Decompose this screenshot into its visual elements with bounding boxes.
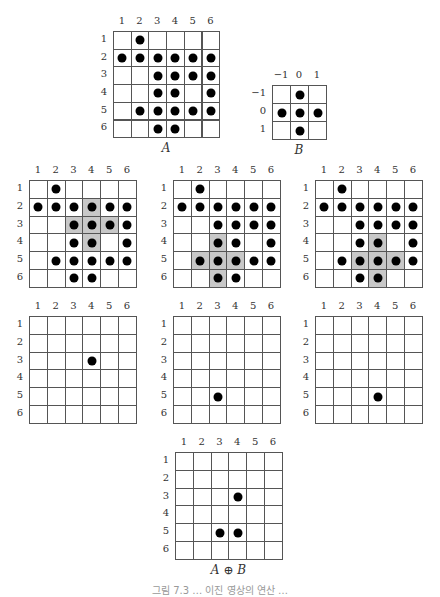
pixel-dot-icon [123,238,132,247]
shaded-cell [100,216,119,235]
grid-cell [272,85,291,104]
grid-cell [29,334,48,353]
grid-cell [244,180,263,199]
pixel-dot-icon [409,238,418,247]
pixel-dot-icon [373,238,382,247]
grid-cell [315,405,334,424]
pixel-dot-icon [189,107,198,116]
row-label: 2 [291,336,309,347]
grid-cell [175,505,194,524]
grid-cell [272,121,291,140]
column-label: 2 [191,300,209,311]
grid-cell [47,251,66,270]
grid-cell [368,180,387,199]
grid-cell [118,216,137,235]
grid-cell [244,269,263,288]
grid-cell [315,180,334,199]
pixel-dot-icon [373,256,382,265]
row-label: 3 [291,354,309,365]
pixel-dot-icon [409,220,418,229]
grid-cell [173,352,192,371]
pixel-dot-icon [267,220,276,229]
grid-cell [333,233,352,252]
grid-cell [29,405,48,424]
grid-cell [209,216,228,235]
pixel-dot-icon [213,274,222,283]
row-label: 3 [291,218,309,229]
pixel-dot-icon [206,107,215,116]
row-label: 6 [291,271,309,282]
pixel-dot-icon [105,256,114,265]
grid-cell [118,316,137,335]
row-label: 4 [149,235,167,246]
grid-cell [333,216,352,235]
column-label: 1 [173,300,191,311]
pixel-dot-icon [213,220,222,229]
grid-cell [173,269,192,288]
row-label: 4 [89,86,107,97]
column-label: 2 [131,15,149,26]
grid-cell [404,369,423,388]
grid-cell [351,316,370,335]
pixel-dot-icon [338,185,347,194]
grid-cell [131,31,150,50]
grid-cell [202,102,221,121]
grid-cell [315,216,334,235]
row-label: 4 [291,235,309,246]
grid-cell [175,523,194,542]
grid-cell [82,180,101,199]
grid-cell [404,233,423,252]
grid-cell [211,541,230,560]
pixel-dot-icon [52,185,61,194]
grid-cell [173,198,192,217]
grid-cell [191,216,210,235]
grid-cell [191,269,210,288]
pixel-dot-icon [231,220,240,229]
grid-cell [209,369,228,388]
row-label: 2 [151,472,169,483]
pixel-dot-icon [153,107,162,116]
grid-cell [368,316,387,335]
row-label: 6 [291,407,309,418]
pixel-dot-icon [249,203,258,212]
pixel-dot-icon [409,256,418,265]
row-label: 2 [89,51,107,62]
row-label: 4 [291,371,309,382]
pixel-dot-icon [123,220,132,229]
row-label: 4 [5,371,23,382]
grid-cell [333,352,352,371]
grid-cell [386,233,405,252]
column-label: 1 [173,164,191,175]
grid-cell [193,470,212,489]
grid-cell [244,198,263,217]
grid-cell [351,198,370,217]
grid-cell [175,452,194,471]
grid-cell [148,120,167,139]
grid-cell [100,269,119,288]
grid-cell [386,334,405,353]
pixel-dot-icon [249,220,258,229]
column-label: 5 [244,300,262,311]
grid-cell [404,198,423,217]
shaded-cell [65,216,84,235]
pixel-dot-icon [171,89,180,98]
grid-cell [315,316,334,335]
grid-cell [173,233,192,252]
row-label: 1 [149,182,167,193]
grid-cell [100,180,119,199]
grid-cell [82,352,101,371]
grid-cell [368,369,387,388]
shaded-cell [209,269,228,288]
grid-cell [404,352,423,371]
grid-cell [333,180,352,199]
column-label: 2 [333,300,351,311]
pixel-dot-icon [52,203,61,212]
grid-cell [386,198,405,217]
column-label: 5 [386,300,404,311]
shaded-cell [82,216,101,235]
grid-cell [47,387,66,406]
grid-cell [166,84,185,103]
grid-cell [173,251,192,270]
grid-cell [166,120,185,139]
pixel-dot-icon [196,185,205,194]
